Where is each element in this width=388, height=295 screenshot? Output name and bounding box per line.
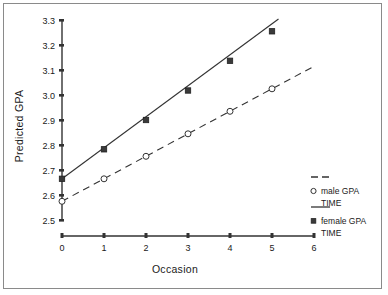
legend-label-male-gpa[interactable]: male GPA: [321, 186, 359, 196]
gpa-growth-chart: Predicted GPA Occasion 3.3 3.2 3.1 3.0 2…: [0, 0, 388, 295]
legend-sublabel-male-time: TIME: [321, 198, 341, 208]
series-line-female-gpa: [62, 19, 279, 179]
legend-label-female-gpa[interactable]: female GPA: [321, 216, 366, 226]
legend-marker-circle-icon: [311, 188, 316, 193]
legend-sublabel-female-time: TIME: [321, 228, 341, 238]
series-markers-male-gpa: [59, 86, 275, 205]
legend-marker-square-icon: [311, 219, 316, 224]
plot-area: [0, 0, 388, 295]
